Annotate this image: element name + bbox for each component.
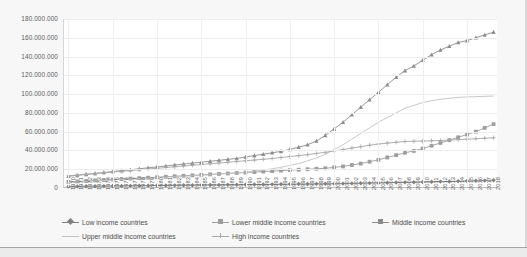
x-axis-tick-label: 1988 bbox=[229, 177, 235, 190]
vertical-gridline bbox=[423, 19, 424, 187]
vertical-gridline bbox=[378, 19, 379, 187]
y-axis-tick-label: 160.000.000 bbox=[21, 34, 58, 41]
data-point bbox=[403, 151, 407, 155]
x-axis-tick-label: 2017 bbox=[486, 177, 492, 190]
x-axis-tick-label: 1986 bbox=[211, 177, 217, 190]
x-axis-tick-label: 1980 bbox=[158, 177, 164, 190]
x-axis-tick-label: 1978 bbox=[140, 177, 146, 190]
x-axis-tick-label: 1972 bbox=[87, 177, 93, 190]
x-axis-tick-label: 2008 bbox=[406, 177, 412, 190]
data-point bbox=[323, 133, 327, 137]
data-point bbox=[367, 143, 371, 147]
x-axis-tick-label: 1974 bbox=[105, 177, 111, 190]
gridline bbox=[64, 150, 497, 151]
x-axis-tick-label: 1989 bbox=[238, 177, 244, 190]
x-axis-tick-label: 1970 bbox=[70, 177, 76, 190]
gridline bbox=[64, 113, 497, 114]
x-axis-tick-label: 2012 bbox=[442, 177, 448, 190]
vertical-gridline bbox=[467, 19, 468, 187]
x-axis-tick-label: 1979 bbox=[149, 177, 155, 190]
data-point bbox=[368, 160, 372, 164]
y-axis-labels: 180.000.000160.000.000140.000.000120.000… bbox=[0, 0, 58, 214]
x-axis-tick-label: 2003 bbox=[362, 177, 368, 190]
data-point bbox=[359, 144, 363, 148]
vertical-gridline bbox=[201, 19, 202, 187]
x-axis-tick-label: 2000 bbox=[335, 177, 341, 190]
x-axis-tick-label: 1996 bbox=[300, 177, 306, 190]
vertical-gridline bbox=[290, 19, 291, 187]
x-axis-tick-label: 2013 bbox=[450, 177, 456, 190]
x-axis-tick-label: 2010 bbox=[424, 177, 430, 190]
vertical-gridline bbox=[157, 19, 158, 187]
data-point bbox=[412, 64, 416, 68]
data-point bbox=[252, 158, 256, 162]
chart-container: 180.000.000160.000.000140.000.000120.000… bbox=[0, 0, 527, 247]
y-axis-tick-label: 80.000.000 bbox=[25, 109, 58, 116]
vertical-gridline bbox=[246, 19, 247, 187]
legend-item[interactable]: Low income countries bbox=[62, 218, 148, 226]
x-axis-tick-label: 1985 bbox=[202, 177, 208, 190]
legend-item[interactable]: High income countries bbox=[212, 232, 299, 240]
legend-label: Upper middle income countries bbox=[82, 233, 176, 240]
gridline bbox=[64, 19, 497, 20]
plot-shell: 180.000.000160.000.000140.000.000120.000… bbox=[0, 0, 527, 214]
data-point bbox=[350, 163, 354, 167]
x-axis-tick-label: 1992 bbox=[264, 177, 270, 190]
data-point bbox=[492, 122, 496, 126]
x-axis-tick-label: 2005 bbox=[380, 177, 386, 190]
y-axis-tick-label: 180.000.000 bbox=[21, 15, 58, 22]
data-point bbox=[491, 30, 495, 34]
vertical-gridline bbox=[113, 19, 114, 187]
taskbar bbox=[0, 247, 527, 257]
data-point bbox=[279, 155, 283, 159]
data-point bbox=[403, 68, 407, 72]
data-point bbox=[190, 163, 194, 167]
y-axis-tick-label: 120.000.000 bbox=[21, 71, 58, 78]
y-axis-tick-label: 100.000.000 bbox=[21, 90, 58, 97]
x-axis-tick-label: 2001 bbox=[344, 177, 350, 190]
data-point bbox=[483, 136, 487, 140]
data-point bbox=[305, 152, 309, 156]
x-axis-tick-label: 2009 bbox=[415, 177, 421, 190]
chart-legend: Low income countriesLower middle income … bbox=[0, 214, 527, 247]
x-axis-tick-label: 1990 bbox=[247, 177, 253, 190]
legend-item[interactable]: Upper middle income countries bbox=[62, 232, 176, 240]
x-axis-tick-label: 1983 bbox=[185, 177, 191, 190]
x-axis-tick-label: 1984 bbox=[194, 177, 200, 190]
x-axis-tick-label: 1991 bbox=[256, 177, 262, 190]
data-point bbox=[491, 136, 495, 140]
data-point bbox=[430, 144, 434, 148]
x-axis-tick-label: 1999 bbox=[326, 177, 332, 190]
x-axis-tick-label: 1995 bbox=[291, 177, 297, 190]
legend-item[interactable]: Lower middle income countries bbox=[212, 218, 326, 226]
vertical-gridline bbox=[334, 19, 335, 187]
legend-marker-icon bbox=[62, 232, 79, 240]
plot-area bbox=[63, 19, 497, 188]
data-point bbox=[403, 139, 407, 143]
y-axis-tick-label: 0 bbox=[54, 184, 58, 191]
x-axis-tick-label: 1997 bbox=[309, 177, 315, 190]
x-axis-tick-label: 2018 bbox=[495, 177, 501, 190]
x-axis-tick-label: 2004 bbox=[371, 177, 377, 190]
y-axis-tick-label: 60.000.000 bbox=[25, 128, 58, 135]
vertical-gridline bbox=[68, 19, 69, 187]
data-point bbox=[429, 139, 433, 143]
x-axis-labels: 1970197119721973197419751976197719781979… bbox=[63, 190, 497, 214]
x-axis-tick-label: 2006 bbox=[388, 177, 394, 190]
gridline bbox=[64, 38, 497, 39]
x-axis-tick-label: 1977 bbox=[132, 177, 138, 190]
x-axis-tick-label: 2007 bbox=[397, 177, 403, 190]
y-axis-tick-label: 20.000.000 bbox=[25, 165, 58, 172]
x-axis-tick-label: 2014 bbox=[459, 177, 465, 190]
legend-marker-icon bbox=[372, 218, 389, 226]
legend-item[interactable]: Middle income countries bbox=[372, 218, 465, 226]
data-point bbox=[314, 151, 318, 155]
x-axis-tick-label: 2016 bbox=[477, 177, 483, 190]
legend-marker-icon bbox=[62, 218, 79, 226]
x-axis-tick-label: 2015 bbox=[468, 177, 474, 190]
data-point bbox=[297, 153, 301, 157]
data-point bbox=[474, 137, 478, 141]
legend-label: High income countries bbox=[232, 233, 299, 240]
gridline bbox=[64, 94, 497, 95]
y-axis-tick-label: 40.000.000 bbox=[25, 146, 58, 153]
